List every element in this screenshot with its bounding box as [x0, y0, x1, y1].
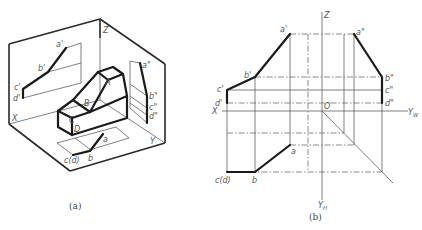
- label-X: X: [11, 114, 18, 123]
- projection-planes: [9, 19, 165, 171]
- side-view-line: [354, 34, 382, 103]
- label-Y: Y: [150, 137, 156, 146]
- label-b-prime: b': [244, 71, 251, 80]
- label-b-dprime: b": [149, 92, 158, 101]
- w-projection-line-2: [130, 96, 147, 108]
- svg-text:YW: YW: [408, 108, 419, 118]
- label-Yw: YW: [408, 108, 419, 118]
- label-D: D: [74, 125, 80, 134]
- top-view-line: [227, 145, 290, 172]
- label-A: A: [104, 78, 110, 87]
- label-d-dprime: d": [385, 99, 394, 108]
- h-plane-front-left-edge: [9, 124, 70, 171]
- svg-text:YH: YH: [318, 201, 327, 211]
- projection-figure: a' b' c' d' a" b" c" d" A B C D a b c(d)…: [0, 0, 422, 230]
- figure-b-orthographic: a' b' c' d' a" b" c" d" a b c(d) X Z O Y…: [211, 11, 419, 222]
- label-a-dprime: a": [142, 61, 151, 70]
- caption-b: (b): [309, 212, 322, 222]
- solid-top-face: [98, 67, 123, 80]
- label-b: b: [252, 176, 257, 185]
- label-a: a: [291, 147, 296, 156]
- label-B: B: [84, 99, 90, 108]
- label-d-prime: d': [13, 94, 20, 103]
- label-a-prime: a': [280, 25, 287, 34]
- w-plane-top-edge: [100, 19, 165, 64]
- v-plane-projection: [23, 43, 81, 98]
- label-d-dprime: d": [149, 112, 158, 121]
- v-projection-line-abcd: [23, 48, 66, 98]
- label-b: b: [88, 154, 93, 163]
- label-Yh: YH: [318, 201, 327, 211]
- figure-a-isometric: a' b' c' d' a" b" c" d" A B C D a b c(d)…: [9, 19, 165, 211]
- label-c-prime: c': [217, 85, 224, 94]
- label-Z: Z: [323, 11, 330, 20]
- v-plane-top-edge: [9, 19, 100, 44]
- label-c-dprime: c": [385, 86, 393, 95]
- w-plane-projection: [130, 61, 147, 123]
- label-b-prime: b': [38, 64, 45, 73]
- caption-a: (a): [69, 201, 81, 211]
- label-a: a: [103, 135, 108, 144]
- label-C: C: [69, 116, 75, 125]
- label-a-prime: a': [56, 40, 63, 49]
- label-c-prime: c': [14, 83, 21, 92]
- label-Z: Z: [102, 26, 109, 35]
- v-projection-frame: [23, 43, 81, 98]
- w-projection-line-abcd: [140, 63, 147, 123]
- label-a-dprime: a": [356, 28, 365, 37]
- label-cd: c(d): [64, 156, 80, 165]
- h-plane-projection: [57, 127, 129, 155]
- label-cd: c(d): [215, 176, 231, 185]
- h-plane-front-right-edge: [70, 143, 165, 171]
- h-projection-frame: [57, 127, 129, 155]
- label-b-dprime: b": [385, 74, 394, 83]
- horizontal-projection-lines: [227, 34, 382, 172]
- w-projection-frame: [130, 61, 147, 123]
- label-X: X: [211, 107, 218, 116]
- h-projection-divider: [75, 138, 91, 150]
- front-view-line: [227, 34, 290, 103]
- label-c-dprime: c": [149, 103, 157, 112]
- w-projection-line-3: [130, 103, 147, 115]
- label-O: O: [324, 102, 330, 111]
